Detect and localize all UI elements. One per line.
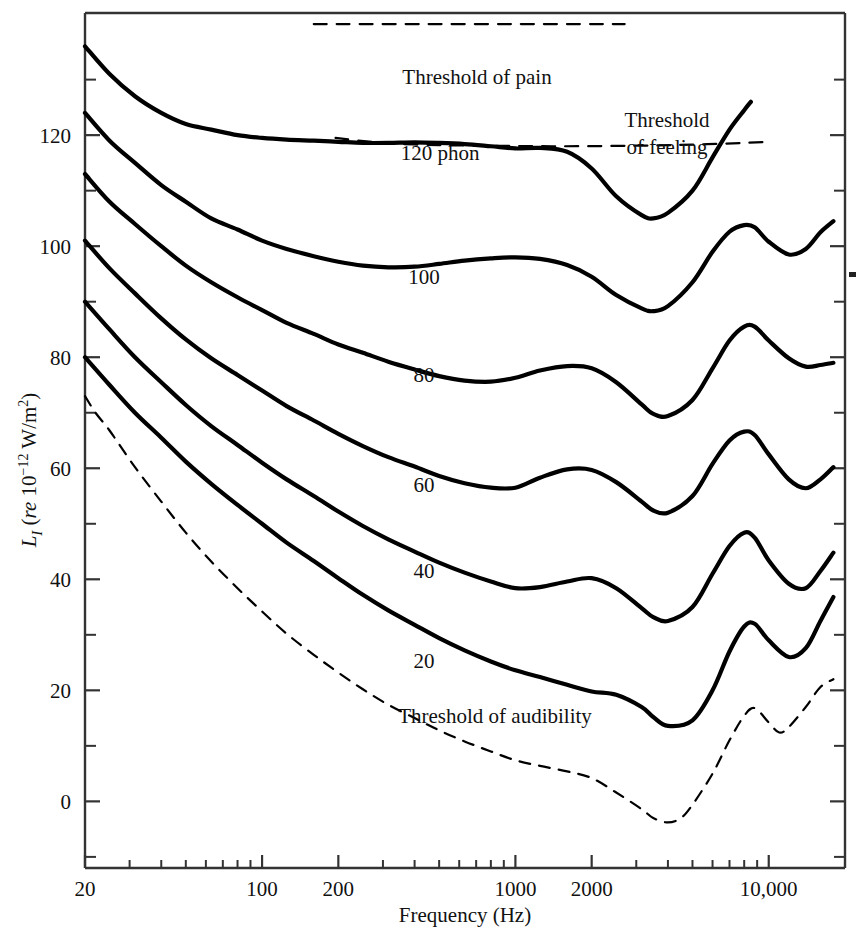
label-40-phon: 40 bbox=[414, 559, 435, 583]
label-120-phon: 120 phon bbox=[401, 141, 480, 165]
x-tick-label: 100 bbox=[246, 877, 278, 901]
x-tick-label: 200 bbox=[323, 877, 355, 901]
y-units-exponent: 2 bbox=[16, 400, 31, 407]
label-100-phon: 100 bbox=[408, 265, 440, 289]
y-exponent: −12 bbox=[16, 454, 31, 476]
x-tick-label: 10,000 bbox=[740, 877, 798, 901]
y-units: W/m bbox=[17, 407, 41, 454]
label-threshold-of-feeling-line2: of feeling bbox=[626, 135, 708, 159]
y-symbol: L bbox=[17, 536, 41, 549]
y-close-paren: ) bbox=[17, 393, 41, 400]
label-80-phon: 80 bbox=[414, 363, 435, 387]
y-tick-label: 40 bbox=[50, 568, 71, 592]
label-60-phon: 60 bbox=[414, 473, 435, 497]
y-tick-label: 120 bbox=[40, 124, 72, 148]
label-20-phon: 20 bbox=[414, 649, 435, 673]
y-tick-label: 60 bbox=[50, 457, 71, 481]
y-re: re bbox=[17, 502, 41, 519]
label-threshold-of-pain: Threshold of pain bbox=[402, 65, 552, 89]
y-open-paren: ( bbox=[17, 518, 41, 525]
y-tick-label: 20 bbox=[50, 679, 71, 703]
y-tick-label: 100 bbox=[40, 235, 72, 259]
x-tick-label: 20 bbox=[75, 877, 96, 901]
label-threshold-of-feeling-line1: Threshold bbox=[624, 108, 710, 132]
label-threshold-of-audibility: Threshold of audibility bbox=[398, 704, 592, 728]
margin-artifact-dot bbox=[849, 272, 856, 277]
equal-loudness-contour-figure: 201002001000200010,000020406080100120 12… bbox=[0, 0, 866, 943]
x-tick-label: 1000 bbox=[494, 877, 536, 901]
y-tick-label: 80 bbox=[50, 346, 71, 370]
x-tick-label: 2000 bbox=[571, 877, 613, 901]
y-base: 10 bbox=[17, 475, 41, 501]
chart-canvas: 201002001000200010,000020406080100120 12… bbox=[0, 0, 866, 943]
x-axis-title: Frequency (Hz) bbox=[399, 903, 531, 927]
y-tick-label: 0 bbox=[61, 790, 72, 814]
